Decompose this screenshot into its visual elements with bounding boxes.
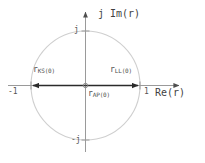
vector-label-r-ks: rKS(0) bbox=[33, 66, 55, 74]
vector-label-r-ll: rLL(0) bbox=[110, 66, 132, 74]
vector-label-r-ap: rAP(0) bbox=[88, 90, 110, 98]
tick-label-real-negative: -1 bbox=[8, 88, 18, 96]
tick-label-imag-negative: -j bbox=[71, 136, 81, 144]
reflection-coefficient-diagram: j Im(r) Re(r) j -j -1 1 rKS(0) rLL(0) rA… bbox=[0, 0, 205, 163]
vector-label-r-ap-subscript: AP(0) bbox=[93, 91, 110, 98]
diagram-canvas bbox=[0, 0, 205, 163]
vector-label-r-ks-subscript: KS(0) bbox=[38, 67, 55, 74]
real-axis-label: Re(r) bbox=[155, 88, 185, 98]
vector-label-r-ll-subscript: LL(0) bbox=[115, 67, 132, 74]
tick-label-imag-positive: j bbox=[74, 26, 79, 34]
imaginary-axis-label: j Im(r) bbox=[98, 9, 140, 19]
tick-label-real-positive: 1 bbox=[144, 88, 149, 96]
